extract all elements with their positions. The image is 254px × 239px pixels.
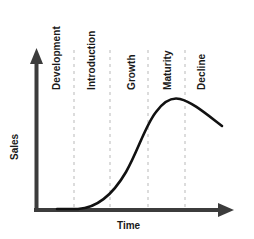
stage-label-development: Development [52, 26, 62, 90]
x-axis-arrowhead [218, 203, 234, 217]
stage-label-decline: Decline [197, 54, 207, 90]
sales-curve [57, 99, 222, 209]
y-axis-title: Sales [10, 134, 20, 160]
stage-label-maturity: Maturity [163, 50, 173, 90]
y-axis-arrowhead [30, 48, 43, 64]
y-axis [30, 48, 43, 210]
product-life-cycle-chart: Development Introduction Growth Maturity… [0, 0, 254, 239]
x-axis-title: Time [117, 221, 140, 231]
stage-label-introduction: Introduction [87, 30, 97, 90]
stage-label-growth: Growth [127, 54, 137, 90]
chart-canvas [0, 0, 254, 239]
